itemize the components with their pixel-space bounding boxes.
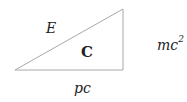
mc-text: mc (157, 37, 178, 53)
hypotenuse-label-E: E (46, 21, 56, 35)
center-label-C: C (81, 45, 93, 60)
horizontal-side-label-pc: pc (74, 81, 91, 95)
right-triangle (15, 9, 123, 70)
exponent: 2 (178, 34, 184, 44)
vertical-side-label-mc2: mc2 (157, 38, 184, 52)
